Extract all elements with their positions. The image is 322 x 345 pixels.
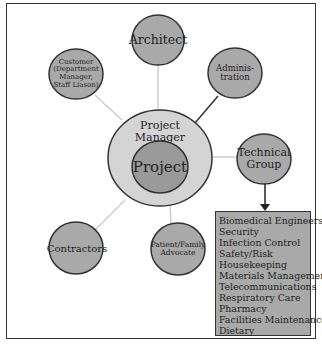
- list-item: Security: [219, 226, 307, 237]
- list-item: Materials Management: [219, 270, 307, 281]
- list-item: Respiratory Care: [219, 292, 307, 303]
- project-label: Project: [132, 155, 188, 179]
- node-administration: Adminis-tration: [212, 60, 258, 86]
- list-item: Infection Control: [219, 237, 307, 248]
- list-item: Housekeeping: [219, 259, 307, 270]
- list-item: Biomedical Engineers: [219, 215, 307, 226]
- node-technical-group: Technical Group: [240, 145, 288, 173]
- technical-group-list: Biomedical Engineers Security Infection …: [215, 211, 311, 336]
- node-contractors: Contractors: [50, 238, 104, 258]
- list-item: Safety/Risk: [219, 248, 307, 259]
- list-item: Dietary: [219, 325, 307, 336]
- list-item: Pharmacy: [219, 303, 307, 314]
- list-item: Telecommunications: [219, 281, 307, 292]
- node-patient-family-advocate: Patient/Family Advocate: [152, 237, 204, 261]
- node-architect: Architect: [132, 28, 184, 52]
- project-manager-label: Project Manager: [120, 118, 200, 146]
- node-customer: Customer (Department Manager, Staff Lias…: [52, 56, 100, 92]
- list-item: Facilities Maintenance: [219, 314, 307, 325]
